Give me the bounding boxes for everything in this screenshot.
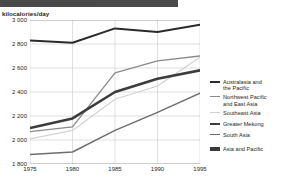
- y-tick-label: 2 400: [12, 89, 27, 95]
- legend-label: Northwest Pacific and East Asia: [223, 93, 267, 106]
- x-tick-label: 1990: [151, 166, 164, 172]
- legend-label: Australasia and the Pacific: [223, 78, 262, 91]
- x-tick-label: 1975: [23, 166, 36, 172]
- y-tick-label: 3 000: [12, 17, 27, 23]
- x-tick-label: 1980: [66, 166, 79, 172]
- legend-swatch-icon: [210, 145, 220, 154]
- legend-label: Greater Mekong: [223, 120, 264, 127]
- chart-title-banner: Trends in food consumption per person: [0, 0, 178, 7]
- x-tick-label: 1985: [108, 166, 121, 172]
- legend-swatch-icon: [210, 78, 220, 87]
- y-axis-unit-label: kilocalories/day: [2, 10, 49, 17]
- legend-swatch-icon: [210, 109, 220, 118]
- y-tick-label: 2 200: [12, 113, 27, 119]
- legend-item-3[interactable]: Greater Mekong: [210, 120, 292, 129]
- y-tick-label: 2 800: [12, 41, 27, 47]
- legend-item-1[interactable]: Northwest Pacific and East Asia: [210, 93, 292, 106]
- legend-item-2[interactable]: Southeast Asia: [210, 109, 292, 118]
- y-tick-label: 2 000: [12, 137, 27, 143]
- legend-item-group-0[interactable]: Asia and Pacific: [210, 145, 292, 154]
- legend-swatch-icon: [210, 120, 220, 129]
- legend-swatch-icon: [210, 131, 220, 140]
- y-axis-tick-labels: 1 8002 0002 2002 4002 6002 8003 000: [0, 20, 27, 164]
- legend-swatch-icon: [210, 93, 220, 102]
- legend-label: Southeast Asia: [223, 109, 261, 116]
- plot-area: [30, 20, 200, 164]
- chart-legend: Australasia and the PacificNorthwest Pac…: [210, 78, 292, 156]
- legend-label: Asia and Pacific: [223, 145, 263, 152]
- x-tick-label: 1995: [193, 166, 206, 172]
- legend-label: South Asia: [223, 131, 250, 138]
- legend-item-4[interactable]: South Asia: [210, 131, 292, 140]
- y-tick-label: 2 600: [12, 65, 27, 71]
- x-axis-tick-labels: 19751980198519901995: [30, 166, 208, 178]
- plot-svg: [30, 20, 200, 164]
- chart-title: Trends in food consumption per person: [0, 0, 178, 7]
- chart-screenshot: Trends in food consumption per person ki…: [0, 0, 292, 184]
- legend-item-0[interactable]: Australasia and the Pacific: [210, 78, 292, 91]
